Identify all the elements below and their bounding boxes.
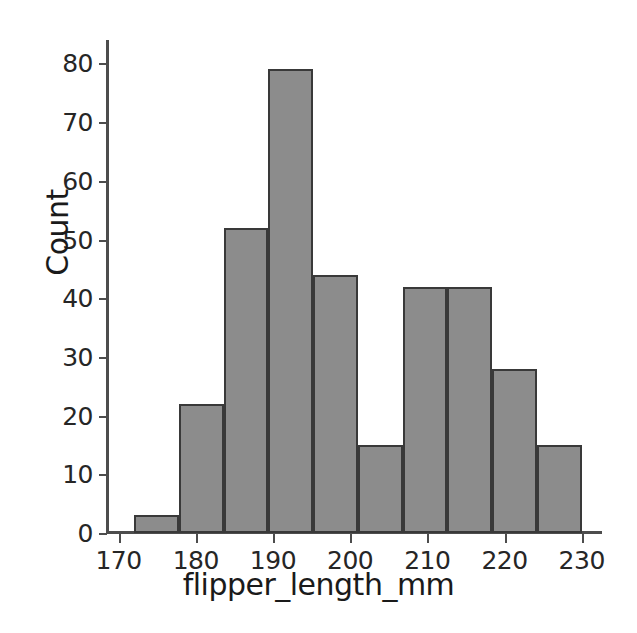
histogram-bar: [492, 369, 537, 533]
x-tick-mark: [273, 534, 275, 543]
x-tick-mark: [196, 534, 198, 543]
x-tick-mark: [427, 534, 429, 543]
y-tick-mark: [99, 416, 107, 418]
x-tick-mark: [505, 534, 507, 543]
x-axis-label: flipper_length_mm: [0, 567, 637, 602]
histogram-bar: [403, 287, 448, 534]
x-tick-mark: [119, 534, 121, 543]
histogram-figure: 01020304050607080 170180190200210220230 …: [0, 0, 637, 633]
y-tick-mark: [99, 357, 107, 359]
x-tick-mark: [582, 534, 584, 543]
y-tick-label: 20: [62, 401, 93, 430]
histogram-bar: [268, 69, 313, 533]
histogram-bar: [537, 445, 582, 533]
y-tick-mark: [99, 474, 107, 476]
y-tick-label: 10: [62, 460, 93, 489]
y-tick-label: 80: [62, 49, 93, 78]
histogram-bar: [447, 287, 492, 534]
y-tick-mark: [99, 240, 107, 242]
plot-area: 01020304050607080 170180190200210220230: [107, 40, 601, 533]
y-axis-label: Count: [40, 168, 75, 298]
y-tick-mark: [99, 533, 107, 535]
y-tick-label: 70: [62, 108, 93, 137]
histogram-bar: [358, 445, 403, 533]
histogram-bar: [134, 515, 179, 533]
histogram-bar: [313, 275, 358, 533]
y-tick-label: 30: [62, 342, 93, 371]
x-tick-mark: [350, 534, 352, 543]
histogram-bar: [179, 404, 224, 533]
y-tick-mark: [99, 298, 107, 300]
histogram-bar: [224, 228, 269, 533]
y-tick-mark: [99, 122, 107, 124]
y-tick-mark: [99, 181, 107, 183]
y-tick-label: 0: [78, 519, 93, 548]
y-tick-mark: [99, 63, 107, 65]
